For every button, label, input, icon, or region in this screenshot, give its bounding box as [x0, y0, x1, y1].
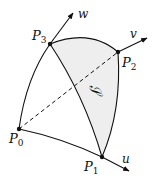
label-v: v [130, 27, 137, 41]
label-w: w [78, 7, 89, 21]
label-u: u [122, 152, 130, 166]
edge-p0-p3 [19, 44, 50, 129]
tetrahedron-diagram: P0 P1 P2 P3 u v w 𝒮 [0, 0, 152, 180]
edge-p0-p1 [19, 129, 102, 157]
label-p1: P1 [83, 159, 98, 176]
vertex-p1 [100, 155, 104, 159]
label-p2: P2 [121, 55, 136, 72]
vertex-p3 [48, 42, 52, 46]
vertex-p2 [116, 50, 120, 54]
label-p0: P0 [8, 131, 24, 148]
label-p3: P3 [31, 28, 47, 45]
